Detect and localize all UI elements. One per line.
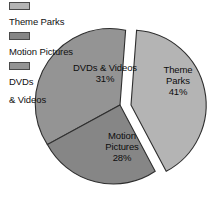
legend-swatch-motion-pictures-icon <box>9 32 30 40</box>
legend-label-motion-pictures: Motion Pictures <box>9 46 73 57</box>
legend-label-dvds-videos: DVDs & Videos <box>9 76 46 105</box>
legend-label-theme-parks: Theme Parks <box>9 16 64 27</box>
pie-chart: DVDs & Videos 31% Theme Parks 41% Motion… <box>0 0 214 202</box>
legend-swatch-dvds-videos-icon <box>9 62 30 70</box>
legend-swatch-theme-parks-icon <box>9 2 30 10</box>
legend-item-theme-parks[interactable]: Theme Parks <box>9 2 105 29</box>
legend: Theme Parks Motion Pictures DVDs & Video… <box>9 2 105 110</box>
legend-item-dvds-videos[interactable]: DVDs & Videos <box>9 62 105 107</box>
legend-item-motion-pictures[interactable]: Motion Pictures <box>9 32 105 59</box>
